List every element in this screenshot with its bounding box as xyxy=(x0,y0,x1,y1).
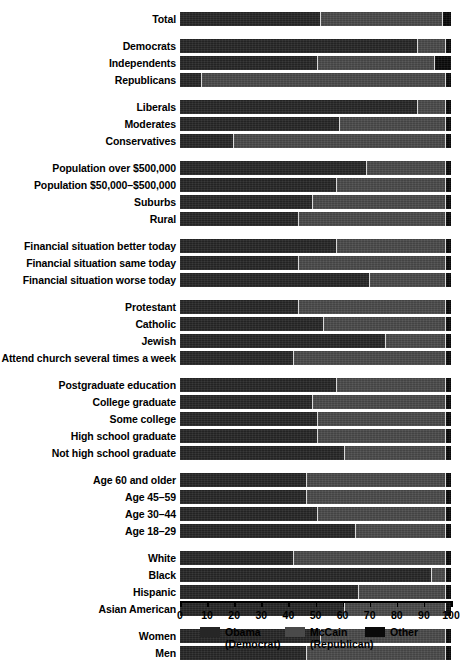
bar-track xyxy=(180,429,451,443)
bar-segment-other xyxy=(446,378,451,392)
bar-row: Jewish xyxy=(0,334,469,348)
bar-segment-mccain xyxy=(321,12,443,26)
axis-tick xyxy=(207,601,209,607)
bar-row-label: Jewish xyxy=(0,334,176,348)
plot-area: TotalDemocratsIndependentsRepublicansLib… xyxy=(0,0,469,600)
bar-segment-obama xyxy=(180,473,307,487)
bar-segment-mccain xyxy=(432,568,446,582)
bar-track xyxy=(180,239,451,253)
legend-sublabel: (Democrat) xyxy=(225,638,280,650)
axis-tick-label: 90 xyxy=(411,609,437,621)
bar-segment-mccain xyxy=(318,507,445,521)
bar-row: Financial situation worse today xyxy=(0,273,469,287)
bar-row: Age 60 and older xyxy=(0,473,469,487)
bar-row: Age 45–59 xyxy=(0,490,469,504)
bar-row-label: Financial situation same today xyxy=(0,256,176,270)
axis-tick xyxy=(180,601,182,607)
bar-segment-obama xyxy=(180,585,359,599)
legend-swatch-icon xyxy=(365,627,385,637)
bar-segment-mccain xyxy=(318,56,435,70)
bar-segment-mccain xyxy=(386,334,446,348)
bar-segment-mccain xyxy=(234,134,445,148)
bar-segment-obama xyxy=(180,334,386,348)
bar-segment-other xyxy=(446,117,451,131)
bar-segment-other xyxy=(446,195,451,209)
bar-row-label: Some college xyxy=(0,412,176,426)
bar-track xyxy=(180,39,451,53)
bar-segment-mccain xyxy=(337,178,445,192)
bar-segment-mccain xyxy=(337,378,445,392)
bar-segment-mccain xyxy=(299,256,445,270)
bar-row: Suburbs xyxy=(0,195,469,209)
bar-segment-mccain xyxy=(294,351,446,365)
bar-segment-other xyxy=(446,256,451,270)
bar-track xyxy=(180,473,451,487)
bar-row-label: Age 30–44 xyxy=(0,507,176,521)
bar-row: Hispanic xyxy=(0,585,469,599)
bar-segment-mccain xyxy=(370,273,446,287)
bar-segment-obama xyxy=(180,117,340,131)
bar-segment-mccain xyxy=(418,100,445,114)
bar-segment-obama xyxy=(180,195,313,209)
bar-segment-other xyxy=(446,334,451,348)
bar-segment-other xyxy=(446,351,451,365)
x-axis: 0102030405060708090100 xyxy=(180,601,452,623)
bar-row-label: Hispanic xyxy=(0,585,176,599)
bar-row: High school graduate xyxy=(0,429,469,443)
bar-track xyxy=(180,12,451,26)
bar-segment-other xyxy=(446,134,451,148)
legend-label: Other xyxy=(390,626,418,638)
bar-row: Financial situation better today xyxy=(0,239,469,253)
bar-row: Age 18–29 xyxy=(0,524,469,538)
bar-segment-mccain xyxy=(294,551,446,565)
bar-segment-mccain xyxy=(313,395,446,409)
bar-segment-other xyxy=(446,73,451,87)
bar-segment-obama xyxy=(180,378,337,392)
bar-track xyxy=(180,524,451,538)
bar-row-label: Liberals xyxy=(0,100,176,114)
legend-label: McCain xyxy=(310,626,347,638)
bar-segment-obama xyxy=(180,351,294,365)
bar-segment-mccain xyxy=(299,212,445,226)
bar-segment-mccain xyxy=(367,161,446,175)
axis-tick-label: 100 xyxy=(438,609,464,621)
bar-segment-other xyxy=(446,446,451,460)
bar-row-label: Age 18–29 xyxy=(0,524,176,538)
bar-segment-mccain xyxy=(356,524,445,538)
bar-segment-mccain xyxy=(318,429,445,443)
bar-track xyxy=(180,585,451,599)
bar-segment-other xyxy=(446,524,451,538)
bar-row: Conservatives xyxy=(0,134,469,148)
bar-row: Attend church several times a week xyxy=(0,351,469,365)
bar-row-label: White xyxy=(0,551,176,565)
bar-segment-mccain xyxy=(340,117,446,131)
axis-tick-label: 80 xyxy=(384,609,410,621)
bar-segment-other xyxy=(443,12,451,26)
bar-track xyxy=(180,100,451,114)
axis-tick-label: 30 xyxy=(248,609,274,621)
axis-tick-label: 60 xyxy=(330,609,356,621)
bar-segment-other xyxy=(446,395,451,409)
bar-segment-obama xyxy=(180,446,345,460)
bar-segment-obama xyxy=(180,212,299,226)
axis-tick xyxy=(234,601,236,607)
bar-row-label: Conservatives xyxy=(0,134,176,148)
bar-row-label: High school graduate xyxy=(0,429,176,443)
bar-segment-other xyxy=(446,507,451,521)
bar-segment-mccain xyxy=(299,300,445,314)
bar-track xyxy=(180,134,451,148)
bar-segment-other xyxy=(435,56,451,70)
axis-tick xyxy=(397,601,399,607)
bar-row-label: Democrats xyxy=(0,39,176,53)
bar-segment-obama xyxy=(180,507,318,521)
bar-segment-obama xyxy=(180,551,294,565)
bar-row: Population $50,000–$500,000 xyxy=(0,178,469,192)
bar-segment-obama xyxy=(180,568,432,582)
bar-row: Black xyxy=(0,568,469,582)
bar-track xyxy=(180,378,451,392)
bar-segment-obama xyxy=(180,178,337,192)
bar-track xyxy=(180,73,451,87)
bar-row-label: Age 60 and older xyxy=(0,473,176,487)
bar-segment-other xyxy=(446,568,451,582)
